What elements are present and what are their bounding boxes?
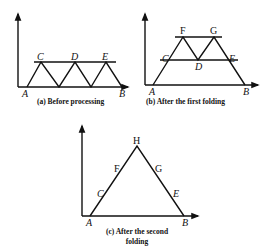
zigzag-path bbox=[27, 62, 122, 87]
folding-diagram: A B C D E (a) Before processing A B C D … bbox=[0, 0, 266, 248]
label-h: H bbox=[133, 135, 140, 146]
label-b: B bbox=[182, 217, 188, 228]
label-b: B bbox=[119, 88, 125, 99]
label-e: E bbox=[228, 53, 235, 64]
label-a: A bbox=[148, 86, 156, 97]
label-c: C bbox=[162, 53, 169, 64]
label-a: A bbox=[21, 88, 29, 99]
label-b: B bbox=[243, 86, 249, 97]
panel-b: A B C D E F G (b) After the first foldin… bbox=[145, 14, 258, 106]
label-e: E bbox=[101, 51, 108, 62]
label-e: E bbox=[172, 188, 179, 199]
panel-a: A B C D E (a) Before processing bbox=[18, 14, 128, 106]
label-a: A bbox=[85, 217, 93, 228]
caption-c-line1: (c) After the second bbox=[106, 227, 169, 236]
panel-c: A B C F H G E (c) After the second foldi… bbox=[82, 126, 198, 246]
label-f: F bbox=[180, 25, 186, 36]
caption-c-line2: folding bbox=[126, 237, 149, 246]
caption-b: (b) After the first folding bbox=[146, 97, 225, 106]
caption-a: (a) Before processing bbox=[37, 97, 104, 106]
label-c: C bbox=[37, 51, 44, 62]
label-g: G bbox=[155, 163, 162, 174]
label-c: C bbox=[97, 188, 104, 199]
label-g: G bbox=[210, 25, 217, 36]
label-d: D bbox=[194, 61, 203, 72]
label-f: F bbox=[114, 163, 120, 174]
label-d: D bbox=[70, 51, 79, 62]
triangle-path bbox=[90, 146, 184, 216]
